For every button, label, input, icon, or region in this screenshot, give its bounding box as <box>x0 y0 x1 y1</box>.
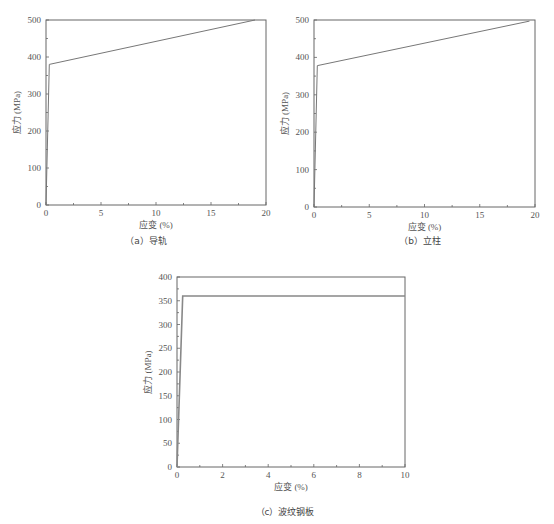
y-tick-label: 500 <box>296 15 310 25</box>
x-tick-label: 0 <box>44 208 49 218</box>
caption-a: （a）导轨 <box>96 234 196 247</box>
y-tick-label: 350 <box>159 296 173 306</box>
y-tick-label: 300 <box>159 320 173 330</box>
x-axis-label: 应变 (%) <box>274 481 308 492</box>
x-tick-label: 5 <box>99 208 104 218</box>
x-axis-label: 应变 (%) <box>408 221 442 232</box>
y-tick-label: 200 <box>296 127 310 137</box>
series-line <box>177 296 405 467</box>
y-tick-label: 300 <box>296 90 310 100</box>
x-tick-label: 2 <box>220 470 225 480</box>
y-tick-label: 400 <box>159 272 173 282</box>
y-tick-label: 0 <box>37 200 42 210</box>
y-tick-label: 50 <box>163 438 173 448</box>
y-axis-label: 应力 (MPa) <box>279 92 290 135</box>
chart-c: 0246810050100150200250300350400应变 (%)应力 … <box>142 272 410 492</box>
plot-frame <box>177 277 405 467</box>
y-tick-label: 300 <box>28 89 42 99</box>
y-axis-label: 应力 (MPa) <box>11 91 22 134</box>
x-tick-label: 10 <box>152 208 162 218</box>
y-tick-label: 200 <box>159 367 173 377</box>
x-tick-label: 5 <box>367 210 372 220</box>
x-tick-label: 20 <box>531 210 541 220</box>
x-tick-label: 15 <box>207 208 217 218</box>
y-tick-label: 0 <box>168 462 173 472</box>
x-tick-label: 4 <box>266 470 271 480</box>
x-tick-label: 10 <box>420 210 430 220</box>
caption-c: （c）波纹钢板 <box>230 505 340 518</box>
series-line <box>46 20 255 205</box>
chart-a: 051015200100200300400500应变 (%)应力 (MPa) <box>11 15 271 230</box>
y-tick-label: 400 <box>296 52 310 62</box>
x-tick-label: 20 <box>262 208 272 218</box>
plot-frame <box>46 20 266 205</box>
series-line <box>314 21 529 207</box>
y-tick-label: 500 <box>28 15 42 25</box>
x-tick-label: 10 <box>401 470 411 480</box>
x-tick-label: 8 <box>357 470 362 480</box>
y-tick-label: 100 <box>159 415 173 425</box>
y-tick-label: 150 <box>159 391 173 401</box>
x-axis-label: 应变 (%) <box>139 219 173 230</box>
x-tick-label: 15 <box>475 210 485 220</box>
charts-canvas: 051015200100200300400500应变 (%)应力 (MPa)05… <box>0 0 554 524</box>
y-tick-label: 400 <box>28 52 42 62</box>
y-axis-label: 应力 (MPa) <box>142 350 153 393</box>
y-tick-label: 0 <box>305 202 310 212</box>
y-tick-label: 100 <box>296 165 310 175</box>
x-tick-label: 0 <box>175 470 180 480</box>
x-tick-label: 0 <box>312 210 317 220</box>
caption-b: （b）立柱 <box>370 234 470 247</box>
y-tick-label: 250 <box>159 343 173 353</box>
y-tick-label: 200 <box>28 126 42 136</box>
chart-b: 051015200100200300400500应变 (%)应力 (MPa) <box>279 15 540 232</box>
y-tick-label: 100 <box>28 163 42 173</box>
x-tick-label: 6 <box>312 470 317 480</box>
plot-frame <box>314 20 535 207</box>
